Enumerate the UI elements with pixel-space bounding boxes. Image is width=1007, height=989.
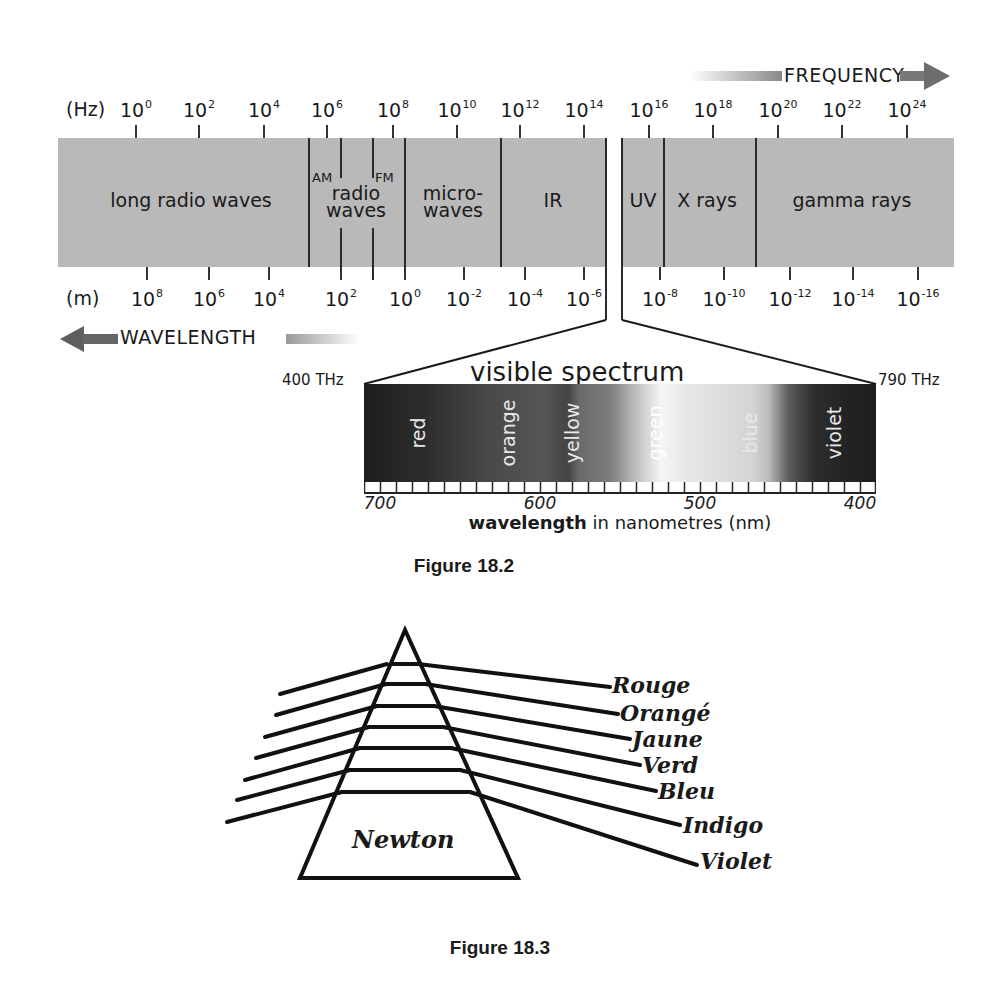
- prism-color-name: Violet: [700, 848, 772, 874]
- nm-tick-label: 500: [684, 493, 716, 513]
- nm-ruler: [364, 482, 876, 494]
- prism-label: Newton: [352, 825, 454, 854]
- nm-axis-title: wavelength in nanometres (nm): [469, 512, 772, 533]
- prism-color-name: Jaune: [632, 726, 703, 752]
- newton-prism-drawing: [0, 600, 1007, 920]
- visible-color-blue: blue: [739, 412, 761, 453]
- nm-tick-label: 700: [364, 493, 396, 513]
- visible-color-red: red: [407, 417, 429, 448]
- prism-color-name: Orangé: [620, 700, 710, 726]
- figure-18-2-caption: Figure 18.2: [414, 555, 514, 577]
- prism-color-name: Verd: [642, 752, 698, 778]
- figure-18-3-caption: Figure 18.3: [450, 937, 550, 959]
- visible-color-violet: violet: [823, 407, 845, 460]
- nm-tick-label: 400: [844, 493, 876, 513]
- zoom-connector-lines: [0, 0, 1007, 400]
- nm-axis-title-rest: in nanometres (nm): [587, 512, 772, 533]
- nm-tick-label: 600: [524, 493, 556, 513]
- prism-color-name: Rouge: [612, 672, 690, 698]
- left-frequency-label: 400 THz: [282, 371, 344, 389]
- visible-color-yellow: yellow: [561, 403, 583, 464]
- visible-color-orange: orange: [497, 400, 519, 467]
- visible-spectrum-title: visible spectrum: [470, 357, 684, 387]
- right-frequency-label: 790 THz: [878, 371, 940, 389]
- visible-spectrum-bar: [364, 384, 876, 482]
- prism-color-name: Indigo: [683, 812, 763, 838]
- prism-color-name: Bleu: [658, 778, 715, 804]
- visible-color-green: green: [644, 406, 666, 461]
- nm-axis-title-bold: wavelength: [469, 512, 587, 533]
